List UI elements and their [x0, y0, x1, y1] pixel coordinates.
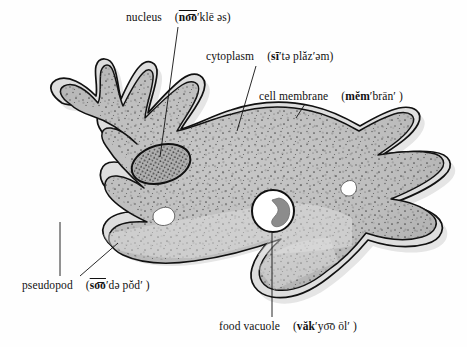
label-cytoplasm: cytoplasm(sī′tə plăz′əm) [206, 50, 333, 63]
label-cell-membrane-term: cell membrane [259, 90, 328, 102]
label-cell-membrane-pronunciation: (mĕm′brān′ ) [341, 90, 403, 102]
food-vacuole-organelle [252, 190, 294, 232]
label-food-vacuole-term: food vacuole [219, 320, 280, 332]
leader-line-pseudopod-b [80, 243, 118, 276]
label-food-vacuole-pronunciation: (văk′yo͞o ōl′ ) [293, 320, 357, 332]
amoeba-diagram-figure: nucleus(no͞o′klē əs) cytoplasm(sī′tə plă… [0, 0, 467, 347]
label-nucleus-pronunciation: (no͞o′klē əs) [175, 11, 231, 23]
label-cytoplasm-pronunciation: (sī′tə plăz′əm) [267, 50, 333, 62]
label-cytoplasm-term: cytoplasm [206, 50, 254, 62]
label-pseudopod: pseudopod(so͞o′də pŏd′ ) [22, 279, 150, 292]
label-nucleus-term: nucleus [126, 11, 162, 23]
label-cell-membrane: cell membrane(mĕm′brān′ ) [259, 90, 403, 103]
label-pseudopod-term: pseudopod [22, 279, 73, 291]
label-nucleus: nucleus(no͞o′klē əs) [126, 11, 231, 24]
label-food-vacuole: food vacuole(văk′yo͞o ōl′ ) [219, 320, 357, 333]
label-pseudopod-pronunciation: (so͞o′də pŏd′ ) [86, 279, 150, 291]
